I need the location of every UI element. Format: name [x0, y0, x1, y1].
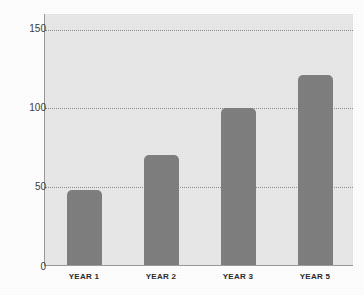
x-tick-label-year-1: YEAR 1	[44, 272, 124, 281]
x-tick-label-year-3: YEAR 3	[198, 272, 278, 281]
bar-year-3	[221, 108, 256, 265]
bar-chart-figure: 150 100 50 0 YEAR 1 YEAR 2 YEAR 3 YEAR 5	[0, 0, 364, 295]
x-tick-label-year-5: YEAR 5	[275, 272, 355, 281]
y-tick-label-50: 50	[12, 181, 46, 192]
y-tick-label-0: 0	[12, 261, 46, 272]
x-tick-label-year-2: YEAR 2	[121, 272, 201, 281]
y-tick-label-150: 150	[12, 23, 46, 34]
bar-year-1	[67, 190, 102, 265]
bar-year-2	[144, 155, 179, 265]
gridline-150	[45, 30, 353, 31]
y-tick-label-100: 100	[12, 102, 46, 113]
bar-year-5	[298, 75, 333, 265]
plot-area	[44, 14, 353, 266]
